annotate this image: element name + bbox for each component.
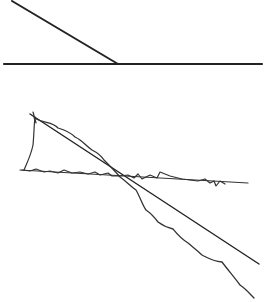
diagram-canvas (0, 0, 264, 302)
background (0, 0, 264, 302)
